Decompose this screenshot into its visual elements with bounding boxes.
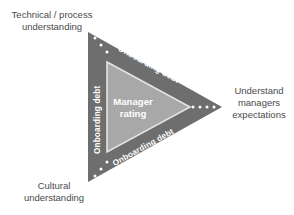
vertex-dot	[106, 51, 109, 54]
vertex-dot	[94, 175, 97, 178]
vertex-dot	[94, 37, 97, 40]
vertex-dot	[100, 168, 103, 171]
vertex-dot	[206, 106, 209, 109]
vertex-dot	[192, 106, 195, 109]
corner-label-technical-process-understanding: Technical / process understanding	[6, 9, 98, 33]
vertex-dot	[213, 106, 216, 109]
center-label-line1: Manager	[113, 96, 153, 107]
vertex-dot	[199, 106, 202, 109]
edge-label-left: Onboarding debt	[93, 86, 102, 154]
corner-label-understand-managers-expectations: Understand managers expectations	[226, 85, 292, 121]
vertex-dot	[100, 44, 103, 47]
center-label-line2: rating	[120, 108, 147, 119]
diagram-canvas: Onboarding debt Onboarding debt Onboardi…	[0, 0, 294, 215]
corner-label-cultural-understanding: Cultural understanding	[8, 180, 100, 204]
vertex-dot	[106, 161, 109, 164]
